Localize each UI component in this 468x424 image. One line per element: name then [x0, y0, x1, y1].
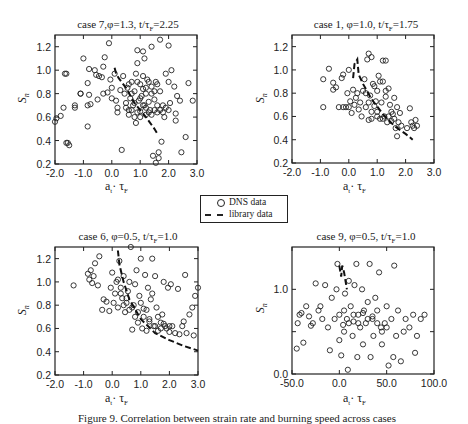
x-axis-label: at· τF [343, 179, 366, 195]
svg-text:0.0: 0.0 [332, 377, 347, 389]
svg-text:50.0: 50.0 [376, 377, 397, 389]
y-axis-label: Sn [15, 93, 31, 103]
svg-text:1.0: 1.0 [273, 283, 288, 295]
legend-label: library data [229, 209, 273, 219]
svg-text:100.0: 100.0 [421, 377, 447, 389]
chart-legend: DNS data library data [200, 195, 288, 223]
legend-label: DNS data [229, 197, 266, 207]
y-axis-label: Sn [253, 303, 269, 313]
x-axis-label: at· τF [343, 391, 366, 407]
x-axis-label: at· τF [105, 391, 128, 407]
y-axis-label: Sn [253, 93, 269, 103]
open-circle-marker-icon [217, 199, 225, 207]
y-axis-label: Sn [15, 305, 31, 315]
legend-item-dns: DNS data [205, 197, 266, 207]
figure-caption: Figure 9. Correlation between strain rat… [78, 412, 396, 424]
svg-text:0.0: 0.0 [273, 368, 288, 380]
x-axis-label: at· τF [105, 179, 128, 195]
legend-item-library: library data [205, 209, 273, 219]
dashed-line-icon [205, 214, 223, 216]
